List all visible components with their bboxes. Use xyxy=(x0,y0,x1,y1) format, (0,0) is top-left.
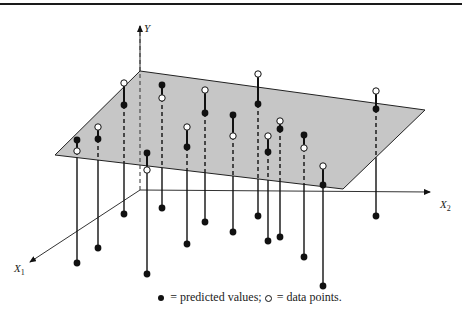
bottom-point xyxy=(74,260,81,267)
open-circle-icon xyxy=(265,295,272,302)
predicted-point xyxy=(265,149,272,156)
bottom-point xyxy=(202,219,209,226)
legend-data: = data points. xyxy=(277,290,342,304)
data-point xyxy=(373,88,379,94)
data-point xyxy=(301,145,307,151)
predicted-point xyxy=(277,126,284,133)
x1-axis-label: X1 xyxy=(14,262,25,277)
bottom-point xyxy=(320,283,327,290)
regression-plane-diagram xyxy=(0,0,474,312)
x2-axis xyxy=(140,190,430,192)
predicted-point xyxy=(184,144,191,151)
filled-circle-icon xyxy=(158,295,164,301)
predicted-point xyxy=(255,101,262,108)
legend: = predicted values; = data points. xyxy=(100,290,400,305)
predicted-point xyxy=(121,102,128,109)
data-point xyxy=(95,124,101,130)
bottom-point xyxy=(159,205,166,212)
predicted-point xyxy=(301,132,308,139)
data-point xyxy=(265,133,271,139)
data-point xyxy=(320,163,326,169)
data-point xyxy=(74,148,80,154)
data-point xyxy=(121,80,127,86)
predicted-point xyxy=(202,110,209,117)
data-point xyxy=(159,95,165,101)
bottom-point xyxy=(265,238,272,245)
data-point xyxy=(144,167,150,173)
predicted-point xyxy=(230,112,237,119)
data-point xyxy=(184,124,190,130)
bottom-point xyxy=(95,245,102,252)
data-point xyxy=(230,133,236,139)
x2-axis-label: X2 xyxy=(440,198,451,213)
predicted-point xyxy=(159,82,166,89)
predicted-point xyxy=(74,137,81,144)
bottom-point xyxy=(144,271,151,278)
predicted-point xyxy=(144,150,151,157)
bottom-point xyxy=(255,213,262,220)
bottom-point xyxy=(121,211,128,218)
regression-plane xyxy=(55,71,425,189)
axes xyxy=(30,190,430,262)
predicted-point xyxy=(373,106,380,113)
bottom-point xyxy=(184,241,191,248)
data-point xyxy=(277,118,283,124)
data-point xyxy=(255,71,261,77)
bottom-point xyxy=(230,229,237,236)
stem-4 xyxy=(144,150,151,278)
bottom-point xyxy=(373,213,380,220)
data-point xyxy=(202,87,208,93)
legend-predicted: = predicted values; xyxy=(170,290,261,304)
bottom-point xyxy=(301,254,308,261)
predicted-point xyxy=(320,182,327,189)
y-axis-label: Y xyxy=(144,22,150,34)
bottom-point xyxy=(277,234,284,241)
predicted-point xyxy=(95,136,102,143)
